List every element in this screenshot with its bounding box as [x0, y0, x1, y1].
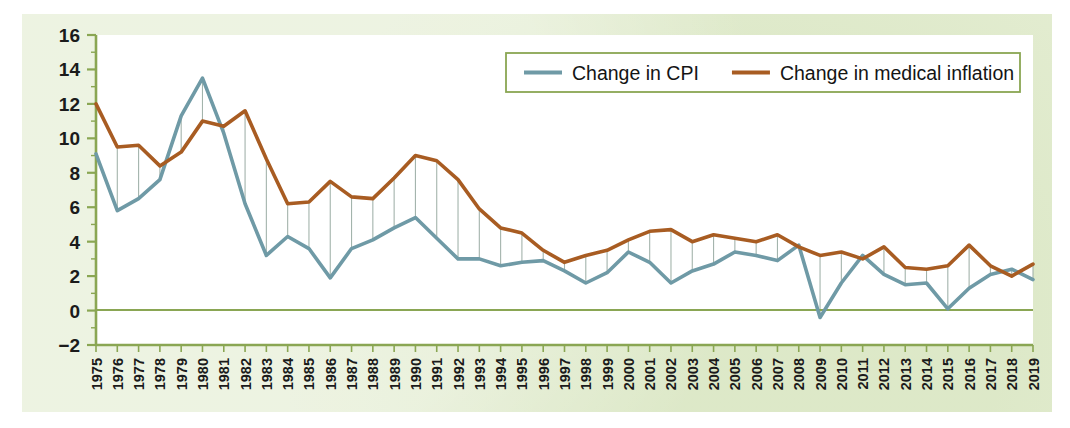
legend-label: Change in medical inflation	[780, 62, 1014, 84]
y-tick-label: 2	[69, 266, 80, 287]
x-tick-label: 2019	[1026, 358, 1042, 390]
x-tick-label: 1989	[387, 358, 403, 390]
x-tick-label: 1992	[451, 358, 467, 390]
y-tick-label: 4	[69, 232, 80, 253]
y-tick-label: 8	[69, 163, 80, 184]
x-tick-label: 2012	[876, 358, 892, 390]
x-tick-label: 2010	[834, 358, 850, 390]
x-tick-label: 1976	[110, 358, 126, 390]
y-axis-tick-marks	[87, 35, 96, 345]
x-tick-label: 1998	[578, 358, 594, 390]
x-tick-label: 2018	[1004, 358, 1020, 390]
y-tick-label: 10	[59, 128, 80, 149]
inflation-line-chart: −20246810121416 197519761977197819791980…	[0, 0, 1070, 428]
x-tick-label: 1985	[301, 358, 317, 390]
x-tick-label: 1990	[408, 358, 424, 390]
chart-legend: Change in CPIChange in medical inflation	[506, 53, 1020, 92]
y-tick-label: 6	[69, 197, 80, 218]
x-tick-label: 2000	[621, 358, 637, 390]
x-tick-label: 1988	[365, 358, 381, 390]
x-tick-label: 1982	[238, 358, 254, 390]
x-tick-label: 2001	[642, 358, 658, 390]
x-tick-label: 1993	[472, 358, 488, 390]
x-tick-label: 1983	[259, 358, 275, 390]
x-tick-label: 2009	[813, 358, 829, 390]
x-tick-label: 2005	[727, 358, 743, 390]
x-tick-label: 2017	[983, 358, 999, 390]
y-tick-label: 14	[59, 59, 81, 80]
x-tick-label: 1980	[195, 358, 211, 390]
x-tick-label: 2008	[791, 358, 807, 390]
x-tick-label: 2014	[919, 358, 935, 390]
x-tick-label: 2002	[663, 358, 679, 390]
x-tick-label: 1979	[174, 358, 190, 390]
x-tick-label: 1975	[89, 358, 105, 390]
x-tick-label: 2003	[685, 358, 701, 390]
x-tick-label: 1991	[429, 358, 445, 390]
x-tick-label: 2011	[855, 358, 871, 389]
x-tick-label: 1999	[600, 358, 616, 390]
x-tick-label: 2007	[770, 358, 786, 390]
x-tick-label: 1997	[557, 358, 573, 390]
x-tick-label: 2016	[962, 358, 978, 390]
chart-screenshot: −20246810121416 197519761977197819791980…	[0, 0, 1070, 428]
y-tick-label: −2	[58, 335, 80, 356]
x-tick-label: 1986	[323, 358, 339, 390]
x-tick-label: 1994	[493, 358, 509, 390]
x-tick-label: 1987	[344, 358, 360, 390]
y-tick-label: 12	[59, 94, 80, 115]
x-tick-label: 1978	[152, 358, 168, 390]
x-tick-label: 1981	[216, 358, 232, 390]
y-axis-tick-labels: −20246810121416	[58, 25, 80, 356]
x-tick-label: 1995	[514, 358, 530, 390]
y-tick-label: 16	[59, 25, 80, 46]
x-tick-label: 1977	[131, 358, 147, 390]
x-tick-label: 1984	[280, 358, 296, 390]
x-tick-label: 2004	[706, 358, 722, 390]
x-tick-label: 2006	[749, 358, 765, 390]
legend-label: Change in CPI	[572, 62, 699, 84]
x-tick-label: 2015	[940, 358, 956, 390]
x-tick-label: 1996	[536, 358, 552, 390]
y-tick-label: 0	[69, 301, 80, 322]
x-tick-label: 2013	[898, 358, 914, 390]
x-axis-tick-labels: 1975197619771978197919801981198219831984…	[89, 358, 1042, 390]
